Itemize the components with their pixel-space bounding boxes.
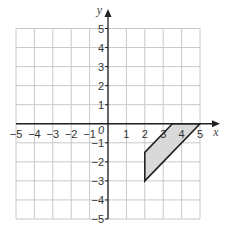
y-axis-arrow-icon xyxy=(105,9,112,17)
axes xyxy=(16,9,220,219)
y-tick-label: 4 xyxy=(98,42,104,54)
shape-layer xyxy=(145,124,200,181)
y-tick-label: 1 xyxy=(98,99,104,111)
x-tick-label: 1 xyxy=(123,128,129,140)
y-tick-label: 5 xyxy=(98,23,104,35)
y-tick-label: 2 xyxy=(98,80,104,92)
y-tick-label: −3 xyxy=(91,175,104,187)
y-tick-label: 3 xyxy=(98,61,104,73)
x-tick-label: −5 xyxy=(10,128,23,140)
y-tick-label: −2 xyxy=(91,156,104,168)
y-tick-label: −1 xyxy=(91,137,104,149)
x-tick-label: 5 xyxy=(197,128,203,140)
x-tick-label: −2 xyxy=(65,128,78,140)
y-tick-label: −5 xyxy=(91,213,104,225)
y-tick-label: −4 xyxy=(91,194,104,206)
origin-label: 0 xyxy=(98,124,105,136)
x-tick-label: 2 xyxy=(142,128,148,140)
shaded-parallelogram xyxy=(145,124,200,181)
x-tick-label: −4 xyxy=(28,128,41,140)
x-axis-label: x xyxy=(212,125,219,139)
x-tick-label: 4 xyxy=(179,128,185,140)
tick-labels: −5−4−3−2−112345−5−4−3−2−1123450xy xyxy=(10,3,220,225)
coordinate-plane: −5−4−3−2−112345−5−4−3−2−1123450xy xyxy=(0,0,232,236)
x-tick-label: 3 xyxy=(160,128,166,140)
y-axis-label: y xyxy=(96,3,103,17)
x-tick-label: −3 xyxy=(47,128,60,140)
